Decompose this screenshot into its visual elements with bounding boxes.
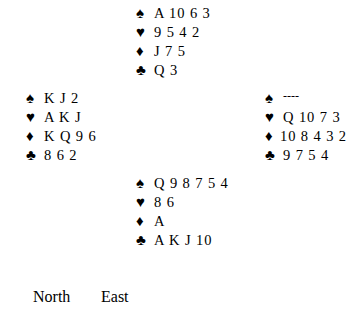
south-spades-cards: Q 9 8 7 5 4 (151, 174, 229, 193)
bidding-header-north: North (33, 285, 70, 309)
east-diamonds-row: ♦ 10 8 4 3 2 (265, 127, 347, 146)
west-hearts-cards: A K J (41, 108, 82, 127)
north-spades-row: ♠ A 10 6 3 (136, 4, 211, 23)
south-diamonds-row: ♦ A (136, 212, 229, 231)
west-clubs-row: ♣ 8 6 2 (26, 146, 97, 165)
north-hearts-row: ♥ 9 5 4 2 (136, 23, 211, 42)
spade-icon: ♠ (265, 89, 280, 108)
east-hearts-cards: Q 10 7 3 (280, 108, 341, 127)
diamond-icon: ♦ (265, 127, 280, 146)
hand-north: ♠ A 10 6 3 ♥ 9 5 4 2 ♦ J 7 5 ♣ Q 3 (136, 4, 211, 80)
hand-west: ♠ K J 2 ♥ A K J ♦ K Q 9 6 ♣ 8 6 2 (26, 89, 97, 165)
north-clubs-cards: Q 3 (151, 61, 178, 80)
spade-icon: ♠ (26, 89, 41, 108)
east-clubs-cards: 9 7 5 4 (280, 146, 329, 165)
north-clubs-row: ♣ Q 3 (136, 61, 211, 80)
bridge-deal-diagram: ♠ A 10 6 3 ♥ 9 5 4 2 ♦ J 7 5 ♣ Q 3 ♠ K J… (0, 0, 347, 312)
south-hearts-cards: 8 6 (151, 193, 175, 212)
spade-icon: ♠ (136, 174, 151, 193)
east-spades-cards: ---- (280, 87, 299, 106)
club-icon: ♣ (136, 231, 151, 250)
south-diamonds-cards: A (151, 212, 165, 231)
club-icon: ♣ (26, 146, 41, 165)
heart-icon: ♥ (136, 23, 151, 42)
north-spades-cards: A 10 6 3 (151, 4, 211, 23)
west-spades-row: ♠ K J 2 (26, 89, 97, 108)
east-clubs-row: ♣ 9 7 5 4 (265, 146, 347, 165)
east-spades-row: ♠ ---- (265, 89, 347, 108)
east-diamonds-cards: 10 8 4 3 2 (280, 127, 347, 146)
heart-icon: ♥ (26, 108, 41, 127)
heart-icon: ♥ (265, 108, 280, 127)
north-diamonds-row: ♦ J 7 5 (136, 42, 211, 61)
spade-icon: ♠ (136, 4, 151, 23)
bidding-table-header: st North East (0, 285, 347, 312)
north-diamonds-cards: J 7 5 (151, 42, 186, 61)
south-clubs-row: ♣ A K J 10 (136, 231, 229, 250)
south-hearts-row: ♥ 8 6 (136, 193, 229, 212)
west-diamonds-cards: K Q 9 6 (41, 127, 97, 146)
west-diamonds-row: ♦ K Q 9 6 (26, 127, 97, 146)
hand-south: ♠ Q 9 8 7 5 4 ♥ 8 6 ♦ A ♣ A K J 10 (136, 174, 229, 250)
diamond-icon: ♦ (136, 42, 151, 61)
bidding-header-east: East (101, 285, 129, 309)
west-clubs-cards: 8 6 2 (41, 146, 78, 165)
south-spades-row: ♠ Q 9 8 7 5 4 (136, 174, 229, 193)
south-clubs-cards: A K J 10 (151, 231, 212, 250)
east-hearts-row: ♥ Q 10 7 3 (265, 108, 347, 127)
hand-east: ♠ ---- ♥ Q 10 7 3 ♦ 10 8 4 3 2 ♣ 9 7 5 4 (265, 89, 347, 165)
heart-icon: ♥ (136, 193, 151, 212)
west-spades-cards: K J 2 (41, 89, 79, 108)
diamond-icon: ♦ (136, 212, 151, 231)
west-hearts-row: ♥ A K J (26, 108, 97, 127)
club-icon: ♣ (136, 61, 151, 80)
diamond-icon: ♦ (26, 127, 41, 146)
club-icon: ♣ (265, 146, 280, 165)
north-hearts-cards: 9 5 4 2 (151, 23, 200, 42)
